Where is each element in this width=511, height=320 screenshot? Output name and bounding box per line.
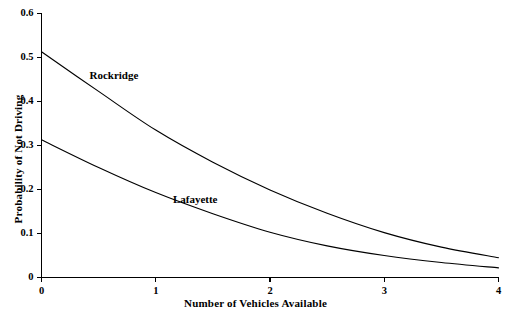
x-axis-title: Number of Vehicles Available [0,297,511,309]
axes [42,14,499,278]
y-tick-label: 0.1 [4,227,34,238]
y-tick-label: 0 [4,271,34,282]
y-tick-label: 0.6 [4,7,34,18]
y-tick-label: 0.2 [4,183,34,194]
chart-container: Probability of Not Driving Number of Veh… [0,0,511,320]
series-line-rockridge [42,52,499,258]
series-annotation-rockridge: Rockridge [89,69,138,81]
x-tick-label: 4 [489,285,509,296]
x-tick-label: 2 [260,285,280,296]
axis-ticks [37,14,499,283]
x-tick-label: 3 [374,285,394,296]
chart-plot-area [0,0,511,320]
series-annotation-lafayette: Lafayette [173,193,218,205]
x-tick-label: 1 [146,285,166,296]
y-tick-label: 0.3 [4,139,34,150]
series-line-lafayette [42,140,499,268]
data-series [42,52,499,268]
y-tick-label: 0.4 [4,95,34,106]
x-tick-label: 0 [32,285,52,296]
y-tick-label: 0.5 [4,51,34,62]
